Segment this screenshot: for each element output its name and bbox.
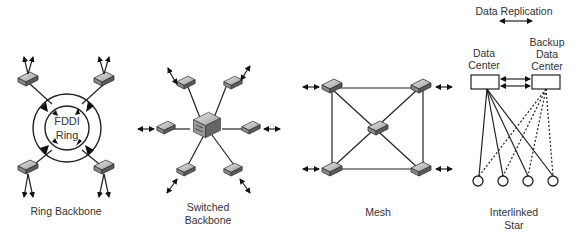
interlinked-star-label-2: Star [504,219,524,231]
sync-arrow-icon [501,79,530,86]
bidirectional-arrow-icon [241,66,250,80]
network-device-icon [18,160,38,174]
switched-backbone-label-1: Switched [187,201,230,213]
network-device-icon [177,163,195,176]
link-line [30,84,52,104]
backup-link-line [503,89,546,176]
uplink-arrow-icon [24,57,28,74]
backup-link-line [546,89,553,176]
network-device-icon [94,72,114,86]
ring-arrow-icon [85,145,94,156]
network-device-icon [18,72,38,86]
switched-backbone-label-2: Backbone [185,214,232,226]
network-device-icon [177,76,195,89]
network-device-icon [224,163,242,176]
ring-center-label-2: Ring [56,129,79,141]
bidirectional-arrow-icon [167,179,177,193]
network-device-icon [224,76,242,89]
uplink-arrow-icon [28,57,33,74]
network-device-icon [322,162,342,176]
network-device-icon [242,121,260,134]
client-node [498,176,508,186]
network-device-icon [157,121,175,134]
client-node [473,176,483,186]
primary-link-line [487,89,528,176]
data-center-box [471,75,499,89]
bidirectional-arrow-icon [168,68,177,84]
backup-center-label-1: Backup [529,36,564,48]
interlinked-star-label-1: Interlinked [490,206,539,218]
network-device-icon [368,121,388,135]
network-device-icon [411,79,431,93]
mesh-topology: Mesh [303,79,452,218]
network-device-icon [322,79,342,93]
client-node [523,176,533,186]
backup-data-center-box [532,75,560,89]
network-topologies-diagram: FDDI Ring Ring Backbone [0,0,578,242]
backup-center-label-2: Data [536,48,558,60]
switch-icon [194,112,221,138]
data-center-label-1: Data [473,47,495,59]
ring-center-label-1: FDDI [54,115,80,127]
downlink-arrow-icon [28,174,33,197]
ring-backbone: FDDI Ring Ring Backbone [18,57,114,217]
switched-backbone: Switched Backbone [138,66,280,226]
data-replication-label: Data Replication [475,5,552,17]
link-line [212,135,234,165]
downlink-arrow-icon [24,174,28,197]
uplink-arrow-icon [104,57,109,74]
mesh-label: Mesh [365,206,391,218]
link-line [82,84,104,104]
interlinked-star: Data Replication Data Center Backup Data… [468,5,564,231]
downlink-arrow-icon [104,174,109,197]
bidirectional-arrow-icon [240,179,250,193]
data-center-label-2: Center [468,59,500,71]
downlink-arrow-icon [99,174,104,197]
backup-center-label-3: Center [531,60,563,72]
primary-link-line [479,89,487,176]
ring-backbone-label: Ring Backbone [30,205,101,217]
inner-ring [45,106,89,150]
client-node [548,176,558,186]
link-line [188,135,204,165]
uplink-arrow-icon [99,57,104,74]
